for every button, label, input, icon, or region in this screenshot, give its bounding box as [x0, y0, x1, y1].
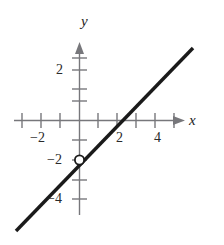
y-tick-label-neg2: −2: [47, 153, 62, 167]
x-axis-label: x: [189, 113, 196, 128]
y-tick-label-neg4: −4: [47, 192, 62, 206]
graph-figure: y x −2 2 4 2 −2 −4: [0, 0, 224, 245]
x-axis-arrowhead: [173, 116, 185, 125]
y-tick-label-2: 2: [56, 63, 63, 77]
y-axis-arrowhead: [75, 42, 84, 54]
x-tick-label-neg2: −2: [30, 131, 45, 145]
x-tick-label-2: 2: [116, 131, 123, 145]
y-axis-label: y: [81, 14, 88, 29]
x-tick-label-4: 4: [154, 131, 161, 145]
open-circle-marker: [75, 155, 84, 164]
